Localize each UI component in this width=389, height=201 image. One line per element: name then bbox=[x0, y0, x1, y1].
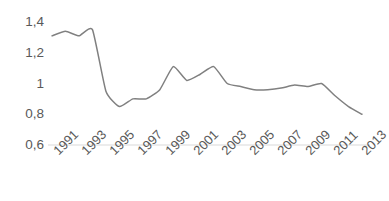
y-axis-tick-label: 0,8 bbox=[4, 107, 44, 121]
y-axis-tick-label: 0,6 bbox=[4, 138, 44, 152]
x-axis: 1991 1993 1995 1997 1999 2001 2003 2005 … bbox=[48, 148, 373, 201]
data-line-series-1 bbox=[52, 29, 362, 115]
y-axis-tick-label: 1 bbox=[4, 77, 44, 91]
y-axis: 1,4 1,2 1 0,8 0,6 bbox=[0, 0, 44, 201]
y-axis-tick-label: 1,4 bbox=[4, 15, 44, 29]
y-axis-tick-label: 1,2 bbox=[4, 46, 44, 60]
